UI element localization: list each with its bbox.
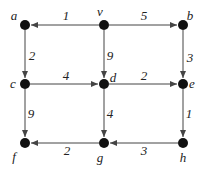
node-label-a: a: [11, 8, 18, 23]
node-label-g: g: [97, 150, 104, 165]
edge-weight-a-c: 2: [29, 48, 36, 63]
edge-weight-d-g: 4: [107, 106, 114, 121]
edge-weight-g-f: 2: [64, 143, 71, 158]
edge-weight-v-a: 1: [63, 8, 70, 23]
edge-weight-c-f: 9: [28, 106, 35, 121]
graph-diagram: 152934294123avbcdefgh: [0, 0, 210, 172]
node-a: [20, 20, 30, 30]
node-label-c: c: [10, 76, 16, 91]
node-label-b: b: [187, 8, 194, 23]
node-c: [20, 79, 30, 89]
node-h: [178, 138, 188, 148]
edge-weight-v-d: 9: [107, 48, 114, 63]
node-label-f: f: [12, 149, 18, 164]
edge-weight-v-b: 5: [141, 8, 148, 23]
node-label-d: d: [110, 70, 117, 85]
node-v: [99, 20, 109, 30]
node-e: [178, 79, 188, 89]
edge-weight-b-e: 3: [186, 50, 194, 65]
edge-weight-d-e: 2: [141, 68, 148, 83]
edge-weight-c-d: 4: [63, 68, 70, 83]
node-label-v: v: [97, 4, 103, 19]
edge-weight-e-h: 1: [186, 106, 193, 121]
node-label-h: h: [180, 150, 187, 165]
node-f: [20, 138, 30, 148]
edge-weight-h-g: 3: [140, 143, 148, 158]
node-d: [99, 79, 109, 89]
node-label-e: e: [189, 76, 195, 91]
node-g: [99, 138, 109, 148]
